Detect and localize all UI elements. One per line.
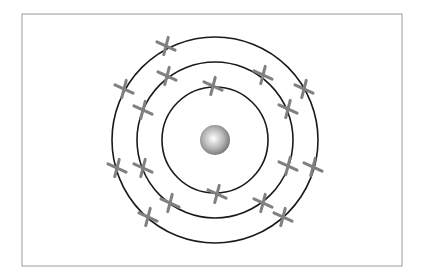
electron-cross-icon	[115, 80, 134, 99]
electron-cross-icon	[108, 159, 127, 178]
electron-cross-icon	[158, 67, 177, 86]
electron-cross-icon	[295, 80, 314, 99]
electron-cross-icon	[254, 66, 273, 85]
atom-diagram	[0, 0, 429, 268]
nucleus-icon	[200, 125, 230, 155]
electron-cross-icon	[161, 194, 180, 213]
electron-cross-icon	[279, 100, 298, 119]
electron-cross-icon	[279, 157, 298, 176]
electron-cross-icon	[208, 185, 227, 204]
electron-cross-icon	[134, 159, 153, 178]
electron-cross-icon	[204, 77, 223, 96]
electron-cross-icon	[134, 101, 153, 120]
